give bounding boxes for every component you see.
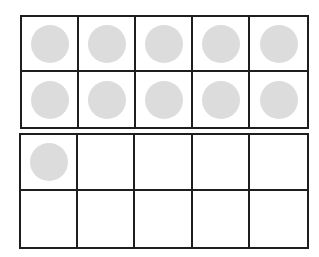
top-ten-frame	[20, 15, 309, 129]
counter-circle-icon	[260, 25, 298, 63]
counter-circle-icon	[145, 25, 183, 63]
counter-circle-icon	[88, 25, 126, 63]
ten-frame-cell	[135, 135, 192, 191]
counter-circle-icon	[31, 25, 69, 63]
ten-frame-cell	[250, 17, 307, 72]
ten-frame-cell	[79, 17, 136, 72]
counter-circle-icon	[202, 25, 240, 63]
ten-frame-cell	[21, 191, 78, 247]
ten-frame-cell	[193, 17, 250, 72]
ten-frame-cell	[136, 17, 193, 72]
counter-circle-icon	[145, 81, 183, 119]
ten-frame-cell	[193, 72, 250, 127]
ten-frame-cell	[22, 17, 79, 72]
ten-frame-cell	[193, 191, 250, 247]
ten-frame-cell	[78, 191, 135, 247]
ten-frame-cell	[22, 72, 79, 127]
counter-circle-icon	[88, 81, 126, 119]
ten-frame-cell	[250, 72, 307, 127]
counter-circle-icon	[31, 81, 69, 119]
counter-circle-icon	[260, 81, 298, 119]
ten-frame-cell	[135, 191, 192, 247]
counter-circle-icon	[202, 81, 240, 119]
ten-frame-cell	[250, 135, 307, 191]
ten-frame-cell	[21, 135, 78, 191]
bottom-ten-frame	[19, 133, 309, 249]
ten-frame-cell	[193, 135, 250, 191]
counter-circle-icon	[30, 143, 68, 181]
ten-frame-cell	[136, 72, 193, 127]
ten-frame-cell	[78, 135, 135, 191]
ten-frame-cell	[250, 191, 307, 247]
ten-frame-cell	[79, 72, 136, 127]
